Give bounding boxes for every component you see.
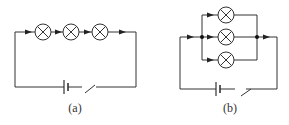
label-b: (b)	[223, 101, 237, 115]
lamp-icon	[218, 52, 234, 68]
circuit-diagrams: (a) (	[0, 0, 289, 125]
lamp-icon	[63, 24, 79, 40]
junction-node	[200, 35, 204, 39]
switch-icon	[85, 85, 95, 93]
parallel-circuit: (b)	[180, 7, 277, 115]
current-arrow-icon	[263, 35, 270, 40]
junction-node	[255, 35, 259, 39]
current-arrow-icon	[207, 13, 214, 18]
current-arrow-icon	[55, 30, 62, 35]
lamp-icon	[218, 7, 234, 23]
series-circuit: (a)	[15, 24, 136, 115]
battery-icon	[216, 82, 220, 96]
lamp-icon	[218, 29, 234, 45]
lamp-icon	[35, 24, 51, 40]
current-arrow-icon	[25, 30, 32, 35]
switch-icon	[241, 89, 251, 96]
current-arrow-icon	[84, 30, 91, 35]
current-arrow-icon	[187, 35, 194, 40]
current-arrow-icon	[207, 58, 214, 63]
current-arrow-icon	[207, 35, 214, 40]
battery-icon	[64, 80, 68, 94]
label-a: (a)	[68, 101, 81, 115]
lamp-icon	[92, 24, 108, 40]
current-arrow-icon	[119, 30, 126, 35]
